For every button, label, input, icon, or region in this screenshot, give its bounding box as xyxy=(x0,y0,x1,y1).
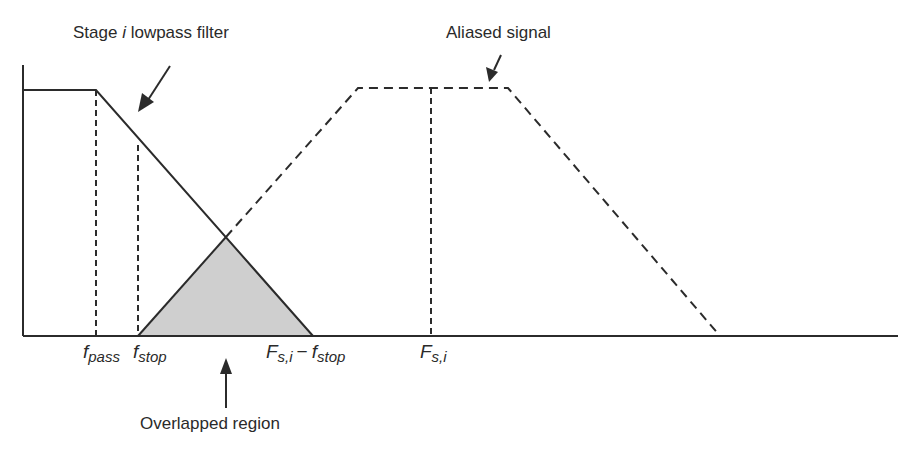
filter-annotation-arrow-icon xyxy=(138,66,170,112)
tick-fs: Fs,i xyxy=(420,341,447,365)
tick-fs-base: F xyxy=(266,341,278,362)
aliased-signal-label: Aliased signal xyxy=(446,23,551,43)
aliased-signal-text: Aliased signal xyxy=(446,23,551,42)
tick-fs-minus-fstop: Fs,i−fstop xyxy=(266,341,345,365)
tick-fs-i-sub: s,i xyxy=(432,348,447,365)
overlap-annotation-arrow-icon xyxy=(220,358,232,408)
tick-f-stop-sub: stop xyxy=(138,348,166,365)
overlapped-region-label: Overlapped region xyxy=(140,414,280,434)
tick-f-pass-sub: pass xyxy=(88,348,120,365)
aliased-annotation-arrow-icon xyxy=(486,55,501,82)
tick-fstop-sub: stop xyxy=(317,348,345,365)
tick-fs-sub: s,i xyxy=(278,348,293,365)
tick-f-pass: fpass xyxy=(83,341,120,365)
filter-title-text-1: Stage xyxy=(73,23,122,42)
filter-aliasing-diagram xyxy=(0,0,915,458)
minus-operator: − xyxy=(297,341,308,362)
tick-fs-i-base: F xyxy=(420,341,432,362)
overlapped-region-text: Overlapped region xyxy=(140,414,280,433)
overlapped-region-fill xyxy=(138,237,313,336)
filter-title-text-2: lowpass filter xyxy=(126,23,229,42)
aliased-signal-curve xyxy=(226,88,720,336)
filter-title-label: Stage i lowpass filter xyxy=(73,23,229,43)
tick-f-stop: fstop xyxy=(133,341,167,365)
